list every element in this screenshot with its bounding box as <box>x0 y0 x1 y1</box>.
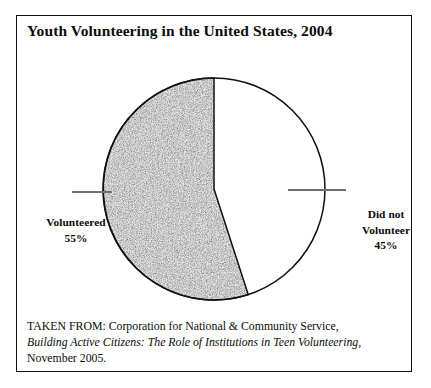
pie-label-volunteered-name: Volunteered <box>33 215 119 231</box>
figure-page: Youth Volunteering in the United States,… <box>0 0 431 388</box>
pie-label-volunteered-value: 55% <box>33 231 119 247</box>
pie-label-did-not-volunteer: Did not Volunteer 45% <box>346 207 426 254</box>
pie-label-did-not-volunteer-line1: Did not <box>346 207 426 223</box>
caption-line-report-title: Building Active Citizens: The Role of In… <box>27 334 402 350</box>
pie-chart-svg <box>16 50 412 312</box>
caption-line-source: TAKEN FROM: Corporation for National & C… <box>27 318 402 334</box>
pie-label-did-not-volunteer-line2: Volunteer <box>346 223 426 239</box>
pie-label-volunteered: Volunteered 55% <box>33 215 119 246</box>
figure-caption: TAKEN FROM: Corporation for National & C… <box>27 318 402 367</box>
page-title: Youth Volunteering in the United States,… <box>27 22 397 40</box>
pie-label-did-not-volunteer-value: 45% <box>346 238 426 254</box>
caption-line-date: November 2005. <box>27 350 402 366</box>
pie-chart-plot-area: Volunteered 55% Did not Volunteer 45% <box>16 50 412 312</box>
